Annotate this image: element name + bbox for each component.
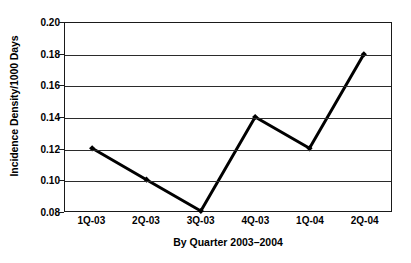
x-tick-label: 2Q-03 <box>132 215 160 226</box>
data-line <box>92 54 364 211</box>
gridline <box>65 118 391 119</box>
data-series-layer <box>65 23 391 211</box>
gridline <box>65 55 391 56</box>
line-chart-figure: Incidence Density/1000 Days 0.200.180.16… <box>0 0 411 263</box>
y-tick-mark <box>59 212 64 213</box>
x-tick-label: 1Q-03 <box>77 215 105 226</box>
x-tick-label: 4Q-03 <box>241 215 269 226</box>
x-tick-label: 2Q-04 <box>351 215 379 226</box>
x-tick-label: 1Q-04 <box>296 215 324 226</box>
x-tick-label: 3Q-03 <box>187 215 215 226</box>
gridline <box>65 150 391 151</box>
gridline <box>65 181 391 182</box>
x-axis-title: By Quarter 2003–2004 <box>64 236 392 248</box>
gridline <box>65 86 391 87</box>
plot-area <box>64 22 392 212</box>
x-axis-tick-labels: 1Q-032Q-033Q-034Q-031Q-042Q-04 <box>64 215 392 231</box>
